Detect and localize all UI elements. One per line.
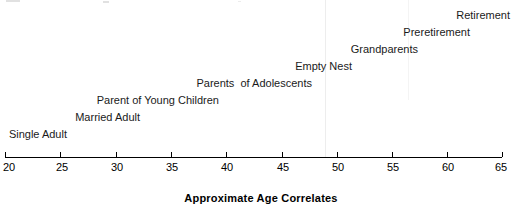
tick-mark <box>60 152 61 157</box>
tick-mark <box>502 152 503 157</box>
scan-band <box>325 0 326 158</box>
tick-mark <box>282 152 283 157</box>
stage-label-married-adult: Married Adult <box>75 111 140 123</box>
tick-label-50: 50 <box>332 161 344 173</box>
tick-label-30: 30 <box>111 161 123 173</box>
age-correlates-chart: Retirement Preretirement Grandparents Em… <box>0 0 522 210</box>
tick-mark <box>337 152 338 157</box>
tick-mark <box>392 152 393 157</box>
tick-mark <box>171 152 172 157</box>
scan-artifact <box>6 0 20 2</box>
tick-mark <box>116 152 117 157</box>
stage-label-parent-of-young-children: Parent of Young Children <box>97 94 219 106</box>
stage-label-empty-nest: Empty Nest <box>295 60 352 72</box>
x-axis-title: Approximate Age Correlates <box>0 192 522 204</box>
tick-label-45: 45 <box>277 161 289 173</box>
stage-label-single-adult: Single Adult <box>9 128 67 140</box>
tick-mark <box>447 152 448 157</box>
scan-artifact <box>103 1 109 3</box>
x-axis-line <box>5 157 502 158</box>
tick-label-40: 40 <box>221 161 233 173</box>
tick-label-55: 55 <box>387 161 399 173</box>
tick-label-60: 60 <box>442 161 454 173</box>
tick-label-65: 65 <box>495 161 507 173</box>
scan-artifact <box>238 1 241 2</box>
stage-label-preretirement: Preretirement <box>403 26 470 38</box>
stage-label-parents-of-adolescents: Parents of Adolescents <box>196 77 312 89</box>
stage-label-grandparents: Grandparents <box>351 43 418 55</box>
tick-label-25: 25 <box>56 161 68 173</box>
tick-label-35: 35 <box>166 161 178 173</box>
tick-mark <box>226 152 227 157</box>
tick-mark <box>5 152 6 157</box>
tick-label-20: 20 <box>3 161 15 173</box>
stage-label-retirement: Retirement <box>456 9 510 21</box>
